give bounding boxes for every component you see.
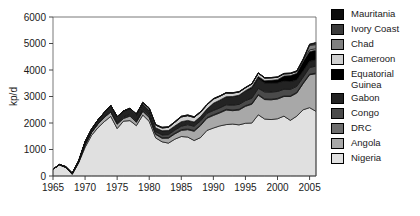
y-axis-tick-label: 3000 (24, 91, 47, 102)
legend-item-label: Gabon (351, 92, 380, 103)
x-axis-tick-label: 1990 (202, 182, 225, 193)
x-axis-tick-label: 2000 (266, 182, 289, 193)
legend-item: Ivory Coast (331, 23, 420, 36)
y-axis-tick-label: 6000 (24, 12, 47, 23)
legend-item-label: Angola (351, 137, 381, 148)
y-axis-title: kp/d (8, 87, 19, 106)
legend-item: Angola (331, 137, 420, 150)
x-axis-tick-label: 1970 (74, 182, 97, 193)
legend-swatch-icon (331, 9, 344, 20)
legend-item-label: Equatorial Guinea (351, 68, 394, 90)
legend-item: Equatorial Guinea (331, 68, 420, 90)
legend-item: Gabon (331, 92, 420, 105)
y-axis-tick-label: 1000 (24, 144, 47, 155)
legend-item: Mauritania (331, 8, 420, 21)
x-axis-tick-label: 1985 (170, 182, 193, 193)
legend-item-label: DRC (351, 122, 372, 133)
chart-figure: 0100020003000400050006000196519701975198… (0, 0, 420, 216)
legend-swatch-icon (331, 69, 344, 80)
y-axis-tick-label: 5000 (24, 38, 47, 49)
legend-swatch-icon (331, 24, 344, 35)
legend-item-label: Mauritania (351, 8, 395, 19)
x-axis-tick-label: 1965 (42, 182, 65, 193)
x-axis-tick-label: 1995 (234, 182, 257, 193)
y-axis-tick-label: 0 (40, 171, 46, 182)
legend-swatch-icon (331, 153, 344, 164)
legend-item-label: Nigeria (351, 152, 381, 163)
legend-item-label: Cameroon (351, 53, 395, 64)
legend-swatch-icon (331, 108, 344, 119)
legend-item: DRC (331, 122, 420, 135)
legend-swatch-icon (331, 39, 344, 50)
x-axis-tick-label: 2005 (298, 182, 321, 193)
chart-legend: MauritaniaIvory CoastChadCameroonEquator… (331, 8, 420, 167)
y-axis-tick-label: 4000 (24, 65, 47, 76)
area-series-group (53, 42, 316, 176)
x-axis-tick-label: 1975 (106, 182, 129, 193)
legend-item-label: Chad (351, 38, 374, 49)
legend-swatch-icon (331, 123, 344, 134)
y-axis-tick-label: 2000 (24, 118, 47, 129)
legend-swatch-icon (331, 54, 344, 65)
legend-item: Cameroon (331, 53, 420, 66)
legend-item: Chad (331, 38, 420, 51)
legend-item-label: Congo (351, 107, 379, 118)
legend-swatch-icon (331, 138, 344, 149)
legend-item-label: Ivory Coast (351, 23, 399, 34)
x-axis-tick-label: 1980 (138, 182, 161, 193)
legend-swatch-icon (331, 93, 344, 104)
legend-item: Nigeria (331, 152, 420, 165)
legend-item: Congo (331, 107, 420, 120)
